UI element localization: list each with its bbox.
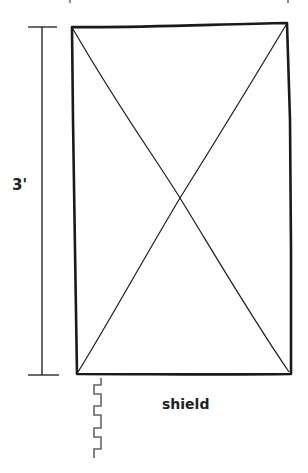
shield-diagonals (73, 25, 289, 372)
dimension-label: 3' (12, 176, 27, 194)
shield-diagram (0, 0, 308, 473)
top-marks (70, 0, 288, 3)
dimension-line (28, 27, 59, 375)
edge-profile (94, 378, 101, 458)
shield-outline (72, 23, 291, 374)
shield-label: shield (162, 396, 209, 412)
